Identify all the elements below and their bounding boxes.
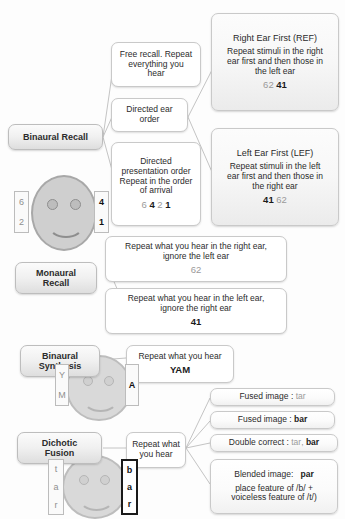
ref-value-bold: 41 (276, 79, 287, 90)
fused-bar-label: Fused image : (238, 415, 292, 425)
right-ear-stimulus-1: A (129, 380, 136, 390)
ear-box-right-binaural-recall: 4 1 (94, 191, 109, 233)
ear-box-left-dichotic-fusion: t a r (48, 459, 64, 515)
ref-value-gray: 62 (263, 79, 274, 90)
category-binaural-recall-label: Binaural Recall (23, 132, 88, 142)
node-directed-ear-order[interactable]: Directed ear order (111, 98, 188, 132)
right-eye-icon (70, 199, 81, 210)
blended-image-row: Blended image: par (234, 470, 313, 480)
directed-presentation-line-4: of arrival (140, 186, 173, 196)
right-ear-stimulus-3: r (128, 499, 132, 509)
dichotic-instruction-line-2: you hear (139, 450, 172, 460)
right-ear-stimulus-2: 1 (99, 217, 104, 227)
ear-box-right-dichotic-fusion: b a r (121, 459, 138, 515)
left-eye-icon (47, 199, 58, 210)
directed-ear-order-line-2: order (140, 115, 160, 125)
left-eye-icon (79, 475, 89, 485)
listener-face-binaural-recall (31, 175, 97, 251)
node-outcome-fused-bar[interactable]: Fused image : bar (210, 411, 335, 429)
ref-title: Right Ear First (REF) (233, 33, 317, 43)
blended-value: par (300, 469, 313, 479)
right-ear-stimulus-2: a (127, 482, 132, 492)
category-dichotic-fusion-line-2: Fusion (45, 448, 75, 458)
node-outcome-fused-tar[interactable]: Fused image : tar (210, 388, 335, 406)
listener-face-dichotic-fusion (62, 455, 128, 519)
node-outcome-double-correct[interactable]: Double correct : tar , bar (210, 434, 338, 452)
lef-value-gray: 62 (276, 194, 287, 205)
node-outcome-blended[interactable]: Blended image: par place feature of /b/ … (210, 459, 338, 514)
left-ear-stimulus-3: r (55, 500, 58, 510)
category-binaural-synthesis-line-1: Binaural (42, 351, 78, 361)
lef-value-bold: 41 (263, 194, 274, 205)
left-ear-stimulus-2: 2 (19, 217, 24, 227)
fused-bar-value: bar (294, 415, 307, 425)
category-binaural-recall[interactable]: Binaural Recall (8, 124, 103, 150)
blended-line-3: voiceless feature of /t/) (231, 493, 317, 503)
free-recall-line-3: hear (147, 69, 164, 79)
node-right-ear-first[interactable]: Right Ear First (REF) Repeat stimuli in … (211, 13, 339, 111)
right-ear-stimulus-1: b (127, 465, 133, 475)
node-monaural-left-ear[interactable]: Repeat what you hear in the left ear, ig… (105, 288, 287, 334)
left-eye-icon (83, 376, 93, 386)
left-ear-stimulus-2: a (53, 482, 58, 492)
right-eye-icon (104, 376, 114, 386)
double-correct-value-gray: tar (291, 438, 301, 448)
sequence-item-4: 1 (165, 199, 170, 210)
double-correct-label: Double correct : (229, 438, 289, 448)
left-ear-stimulus-1: Y (59, 370, 65, 380)
node-monaural-right-ear[interactable]: Repeat what you hear in the right ear, i… (105, 236, 287, 282)
left-ear-stimulus-1: 6 (19, 197, 24, 207)
category-monaural-recall[interactable]: Monaural Recall (15, 262, 97, 294)
diagram-canvas: Binaural Recall Free recall. Repeat ever… (0, 0, 345, 519)
category-monaural-recall-line-2: Recall (43, 278, 70, 288)
ear-box-left-binaural-synthesis: Y M (55, 364, 69, 406)
right-eye-icon (100, 475, 110, 485)
ear-box-right-binaural-synthesis: A (125, 364, 139, 406)
category-dichotic-fusion-line-1: Dichotic (42, 438, 78, 448)
fused-tar-value: tar (296, 392, 306, 402)
ref-line-3: the left ear (255, 67, 295, 77)
fused-tar-label: Fused image : (239, 392, 293, 402)
node-directed-presentation-order[interactable]: Directed presentation order Repeat in th… (111, 142, 201, 226)
lef-title: Left Ear First (LEF) (237, 148, 314, 158)
directed-presentation-sequence: 6 4 2 1 (141, 200, 170, 211)
ref-values: 62 41 (263, 80, 287, 91)
node-binaural-synthesis-instruction[interactable]: Repeat what you hear YAM (126, 345, 234, 383)
monaural-right-line-2: ignore the left ear (163, 252, 229, 262)
smile-icon (83, 388, 118, 412)
smile-icon (48, 212, 84, 238)
ear-box-left-binaural-recall: 6 2 (14, 191, 29, 233)
lef-line-3: the right ear (252, 182, 297, 192)
right-ear-stimulus-1: 4 (99, 197, 104, 207)
blended-label: Blended image: (234, 469, 293, 479)
monaural-left-line-2: ignore the right ear (160, 304, 231, 314)
category-monaural-recall-line-1: Monaural (36, 268, 76, 278)
node-left-ear-first[interactable]: Left Ear First (LEF) Repeat stimuli in t… (211, 128, 339, 226)
monaural-right-value: 62 (191, 265, 202, 276)
monaural-left-value: 41 (191, 317, 202, 328)
double-correct-value-bold: bar (306, 438, 319, 448)
binaural-synthesis-response: YAM (170, 365, 190, 376)
binaural-synthesis-instruction: Repeat what you hear (138, 352, 221, 362)
lef-values: 41 62 (263, 195, 287, 206)
left-ear-stimulus-1: t (55, 464, 58, 474)
left-ear-stimulus-2: M (58, 390, 66, 400)
node-free-recall[interactable]: Free recall. Repeat everything you hear (111, 42, 201, 87)
smile-icon (79, 487, 114, 511)
